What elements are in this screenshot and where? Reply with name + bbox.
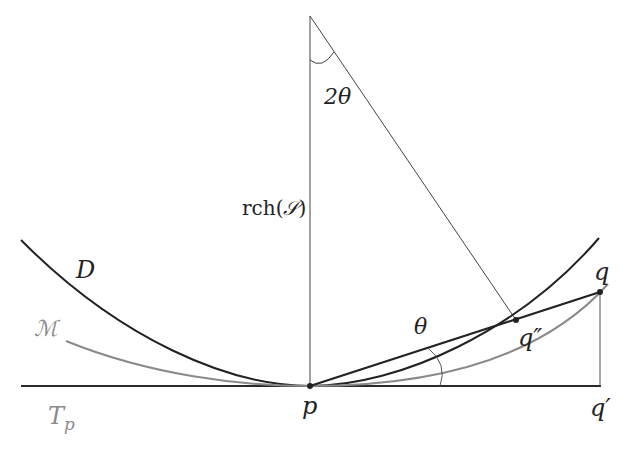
label-M: ℳ [34,318,58,340]
label-reach: rch(𝒮) [242,198,306,218]
label-two-theta: 2θ [324,86,351,108]
label-Tp: Tp [48,404,75,433]
apex-to-q2-line [310,16,516,320]
label-Tp-sub: p [64,414,75,434]
label-D: D [76,258,95,282]
p-to-q-segment [310,292,600,386]
point-q-double-prime [513,317,519,323]
label-p: p [302,394,317,418]
label-reach-set: 𝒮 [283,196,298,220]
theta-arc [428,348,442,386]
diagram-svg [0,0,629,450]
label-q-prime: q′ [590,396,611,420]
label-reach-prefix: rch( [242,196,283,220]
label-reach-suffix: ) [298,196,306,220]
point-q [597,289,603,295]
reach-diagram: 2θ rch(𝒮) D ℳ Tp p θ q q″ q′ [0,0,629,450]
two-theta-arc [310,52,334,64]
label-Tp-main: T [48,402,64,430]
point-p [307,383,313,389]
label-theta: θ [414,316,427,338]
label-q-double-prime: q″ [518,326,542,350]
label-q: q [594,260,609,284]
